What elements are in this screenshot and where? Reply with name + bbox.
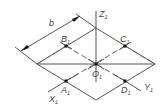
label-b1: B1 [61, 34, 70, 45]
y1-axis-upper [113, 74, 125, 81]
label-a1: A1 [60, 85, 70, 96]
dimension-arrow-upper [72, 16, 80, 22]
label-d1: D1 [121, 85, 131, 96]
extension-line-lower [15, 47, 37, 64]
x1-axis-upper [66, 74, 78, 81]
point-o1 [95, 63, 98, 66]
label-c1: C1 [120, 34, 130, 45]
dimension-label-b: b [49, 18, 54, 28]
dimension-arrow-lower [21, 45, 29, 51]
label-z1: Z1 [98, 9, 108, 20]
point-a1 [65, 80, 68, 83]
diagram-svg: b Z1 B1 C1 O1 A1 D1 X1 Y1 [0, 0, 167, 112]
label-x1: X1 [48, 94, 58, 105]
label-o1: O1 [92, 69, 102, 80]
isometric-diagram: b Z1 B1 C1 O1 A1 D1 X1 Y1 [0, 0, 167, 112]
label-y1: Y1 [144, 82, 153, 93]
point-d1 [124, 80, 127, 83]
